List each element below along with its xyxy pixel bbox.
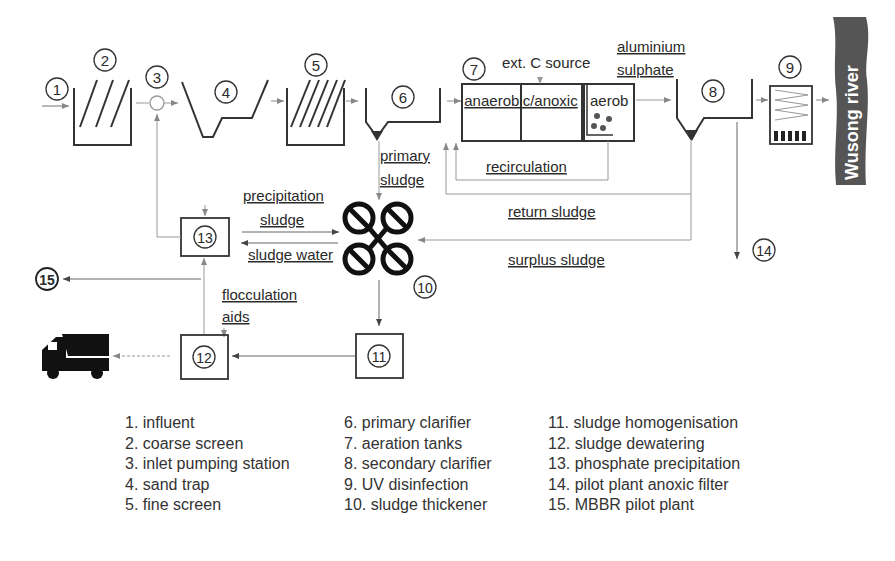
legend-item: 11. sludge homogenisation xyxy=(548,413,740,434)
node-12-sludge-dewatering: 12 xyxy=(113,258,228,379)
legend-item: 13. phosphate precipitation xyxy=(548,454,740,475)
svg-text:6: 6 xyxy=(399,89,407,106)
svg-text:8: 8 xyxy=(709,83,717,100)
recirculation-loop: recirculation xyxy=(456,141,608,180)
label-sulphate: sulphate xyxy=(617,61,674,78)
svg-text:7: 7 xyxy=(470,61,478,78)
legend-item: 4. sand trap xyxy=(125,475,290,496)
node-9-uv-disinfection: 9 xyxy=(770,56,829,144)
svg-text:sludge: sludge xyxy=(380,171,424,188)
legend-col-1: 1. influent 2. coarse screen 3. inlet pu… xyxy=(125,413,290,516)
svg-text:9: 9 xyxy=(786,59,794,76)
legend-item: 5. fine screen xyxy=(125,495,290,516)
svg-text:10: 10 xyxy=(417,280,433,296)
node-7-aeration-tanks: 7 ext. C source anaerobic/anoxic aerob xyxy=(462,54,634,141)
svg-text:primary: primary xyxy=(380,147,431,164)
svg-text:15: 15 xyxy=(39,272,55,288)
svg-text:sludge: sludge xyxy=(260,211,304,228)
legend-item: 7. aeration tanks xyxy=(344,434,492,455)
svg-text:3: 3 xyxy=(153,69,161,86)
svg-text:12: 12 xyxy=(196,350,212,366)
truck-icon xyxy=(42,334,109,379)
svg-text:aerob: aerob xyxy=(590,92,628,109)
node-1-influent: 1 xyxy=(42,78,69,106)
svg-text:ext. C source: ext. C source xyxy=(502,54,590,71)
legend-item: 9. UV disinfection xyxy=(344,475,492,496)
node-15-mbbr-pilot-plant: 15 xyxy=(36,268,201,290)
node-10-sludge-thickener: 10 xyxy=(345,204,436,326)
svg-text:11: 11 xyxy=(372,349,387,365)
svg-text:return sludge: return sludge xyxy=(508,203,596,220)
svg-text:2: 2 xyxy=(101,52,109,69)
node-13-phosphate-precipitation: 13 precipitation sludge sludge water xyxy=(157,114,339,263)
svg-text:Wusong river: Wusong river xyxy=(842,65,862,180)
legend-item: 12. sludge dewatering xyxy=(548,434,740,455)
legend-item: 10. sludge thickener xyxy=(344,495,492,516)
legend-item: 15. MBBR pilot plant xyxy=(548,495,740,516)
legend-item: 14. pilot plant anoxic filter xyxy=(548,475,740,496)
svg-text:anaerobic/anoxic: anaerobic/anoxic xyxy=(464,92,578,109)
svg-text:precipitation: precipitation xyxy=(243,187,324,204)
svg-text:5: 5 xyxy=(312,57,320,74)
svg-text:1: 1 xyxy=(53,81,61,98)
svg-text:recirculation: recirculation xyxy=(486,158,567,175)
node-6-primary-clarifier: 6 primary sludge xyxy=(366,86,461,200)
label-aluminium: aluminium xyxy=(617,38,685,55)
legend-col-3: 11. sludge homogenisation 12. sludge dew… xyxy=(548,413,740,516)
legend-item: 1. influent xyxy=(125,413,290,434)
legend-item: 2. coarse screen xyxy=(125,434,290,455)
node-4-sand-trap: 4 xyxy=(182,80,284,137)
node-11-sludge-homogenisation: 11 xyxy=(232,334,403,378)
svg-text:sludge water: sludge water xyxy=(248,246,333,263)
svg-text:14: 14 xyxy=(756,243,772,259)
node-5-fine-screen: 5 xyxy=(287,54,358,145)
legend-col-2: 6. primary clarifier 7. aeration tanks 8… xyxy=(344,413,492,516)
svg-text:13: 13 xyxy=(197,230,213,246)
legend-item: 6. primary clarifier xyxy=(344,413,492,434)
label-aids: aids xyxy=(222,308,250,325)
svg-text:4: 4 xyxy=(222,84,230,101)
node-2-coarse-screen: 2 xyxy=(74,49,131,145)
node-3-inlet-pumping-station: 3 xyxy=(136,66,178,110)
legend-item: 3. inlet pumping station xyxy=(125,454,290,475)
node-8-secondary-clarifier: 8 xyxy=(677,79,768,141)
wusong-river: Wusong river xyxy=(833,17,868,185)
label-flocculation: flocculation xyxy=(222,286,297,303)
legend-item: 8. secondary clarifier xyxy=(344,454,492,475)
svg-text:surplus sludge: surplus sludge xyxy=(508,251,605,268)
